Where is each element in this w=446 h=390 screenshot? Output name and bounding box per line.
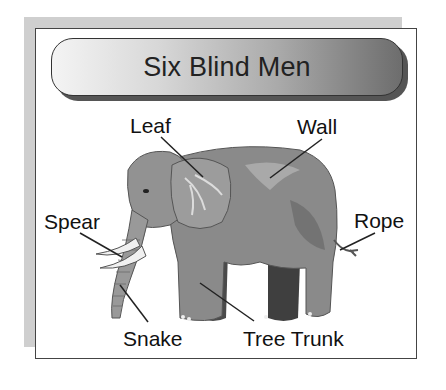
toenail [181, 315, 185, 319]
label-rope: Rope [354, 210, 404, 231]
label-spear: Spear [44, 211, 100, 232]
elephant-back-leg-right [268, 262, 300, 321]
label-wall: Wall [297, 116, 337, 137]
snake-leader-line [120, 285, 148, 322]
label-snake: Snake [123, 328, 183, 349]
label-leaf: Leaf [130, 115, 171, 136]
rope-leader-line [340, 233, 375, 250]
elephant-illustration [0, 0, 446, 390]
toenail [187, 317, 191, 321]
label-tree-trunk: Tree Trunk [243, 328, 344, 349]
toenail [264, 315, 268, 319]
toenail [308, 312, 312, 316]
elephant-eye [143, 189, 149, 193]
